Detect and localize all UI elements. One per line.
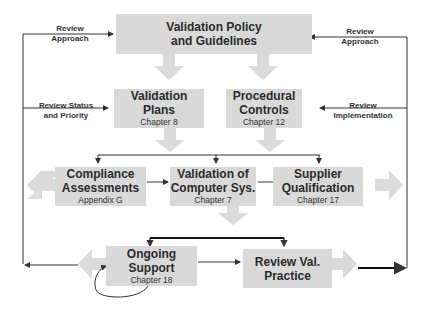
box-subtitle: Chapter 8 [140,117,177,128]
box-title: Assessments [62,181,139,195]
box-title: Compliance [66,167,134,181]
box-title: Controls [239,103,288,117]
box-title: Validation Plans [114,89,204,117]
box-title: Ongoing [127,247,176,261]
box-subtitle: Chapter 12 [243,117,285,128]
box-title: Procedural [233,89,296,103]
box-validation-plans: Validation Plans Chapter 8 [114,89,204,128]
box-review-practice: Review Val. Practice [243,249,332,288]
box-title: Supplier [294,167,342,181]
box-subtitle: Chapter 18 [130,275,172,286]
label-review-approach-left: Review Approach [42,24,98,44]
box-supplier-qualification: Supplier Qualification Chapter 17 [273,167,363,206]
label-review-approach-right: Review Approach [330,27,390,47]
box-title: and Guidelines [171,34,257,48]
box-title: Computer Sys. [171,181,256,195]
block-arrows [27,52,403,279]
box-title: Review Val. [255,255,320,269]
box-title: Support [129,261,175,275]
label-review-implementation: Review Implementation [328,101,398,121]
label-review-status: Review Status and Priority [36,101,96,121]
box-validation-policy: Validation Policy and Guidelines [116,14,312,54]
box-subtitle: Chapter 17 [297,195,339,206]
box-procedural-controls: Procedural Controls Chapter 12 [226,89,302,128]
box-title: Validation of [177,167,248,181]
box-title: Validation Policy [166,20,261,34]
box-compliance-assessments: Compliance Assessments Appendix G [55,167,146,206]
box-title: Practice [264,269,311,283]
box-subtitle: Appendix G [78,195,122,206]
box-ongoing-support: Ongoing Support Chapter 18 [106,246,197,286]
box-title: Qualification [282,181,355,195]
box-validation-computer: Validation of Computer Sys. Chapter 7 [170,167,256,206]
box-subtitle: Chapter 7 [194,195,231,206]
